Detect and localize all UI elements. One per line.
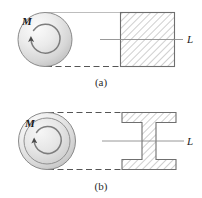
panel-a-torque-label: M: [21, 15, 33, 27]
panel-a-length-label: L: [186, 33, 193, 45]
panel-a-caption: (a): [95, 76, 108, 89]
panel-b-caption: (b): [95, 180, 108, 193]
figure-container: M L (a) M L (b): [0, 0, 202, 198]
panel-b-torque-label: M: [24, 117, 36, 129]
panel-b: M L (b): [19, 113, 194, 194]
panel-a: M L (a): [18, 13, 193, 90]
engineering-figure: M L (a) M L (b): [0, 0, 202, 198]
panel-b-length-label: L: [186, 135, 193, 147]
